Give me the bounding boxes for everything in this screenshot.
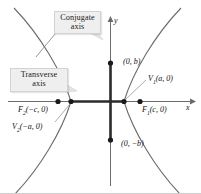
axis-label-x: x (186, 103, 190, 112)
label-covertex-top: (0, b) (123, 57, 140, 66)
vertex-right-leader-line (126, 80, 146, 99)
label-covertex-bottom: (0, −b) (121, 139, 144, 148)
label-vertex-left: V2(−a, 0) (12, 122, 42, 133)
hyperbola-figure: Conjugate axis Transverse axis (0, b) (0… (0, 0, 201, 194)
label-focus-right-coords: (c, 0) (150, 105, 167, 114)
point-vertex-right (121, 99, 126, 104)
callout-conjugate-axis: Conjugate axis (54, 11, 101, 34)
hyperbola-left-branch (14, 8, 71, 193)
point-vertex-left (68, 99, 73, 104)
label-focus-left: F2(−c, 0) (18, 105, 48, 116)
vertex-left-leader-line (55, 104, 70, 122)
callout-conjugate-line2: axis (58, 23, 97, 32)
point-covertex-top (108, 60, 113, 65)
label-vertex-left-coords: (−a, 0) (20, 122, 43, 131)
point-covertex-bottom (108, 137, 113, 142)
hyperbola-right-branch (124, 8, 181, 193)
label-vertex-right-coords: (a, 0) (156, 74, 173, 83)
point-focus-left (55, 99, 60, 104)
axis-label-y: y (114, 16, 118, 25)
label-focus-left-coords: (−c, 0) (26, 105, 48, 114)
label-vertex-right: V1(a, 0) (148, 74, 173, 85)
callout-transverse-axis: Transverse axis (10, 68, 68, 92)
label-focus-right: F1(c, 0) (142, 105, 167, 116)
point-focus-right (137, 99, 142, 104)
callout-transverse-line2: axis (14, 80, 64, 89)
